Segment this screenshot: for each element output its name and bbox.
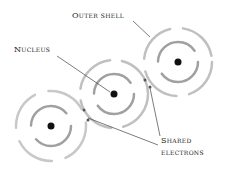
middle-atom (80, 60, 148, 128)
nucleus-label: Nucleus (14, 45, 50, 54)
nucleus-middle (111, 91, 118, 98)
outer-shell-label: Outer shell (72, 11, 124, 20)
shared-electrons-label-line1: Shared (161, 136, 192, 145)
left-atom (16, 91, 86, 161)
nucleus-right (175, 59, 182, 66)
covalent-bond-diagram (0, 0, 229, 171)
shared-electrons-label-line2: electrons (161, 148, 204, 157)
nucleus-left (48, 123, 55, 130)
right-atom (144, 28, 212, 96)
